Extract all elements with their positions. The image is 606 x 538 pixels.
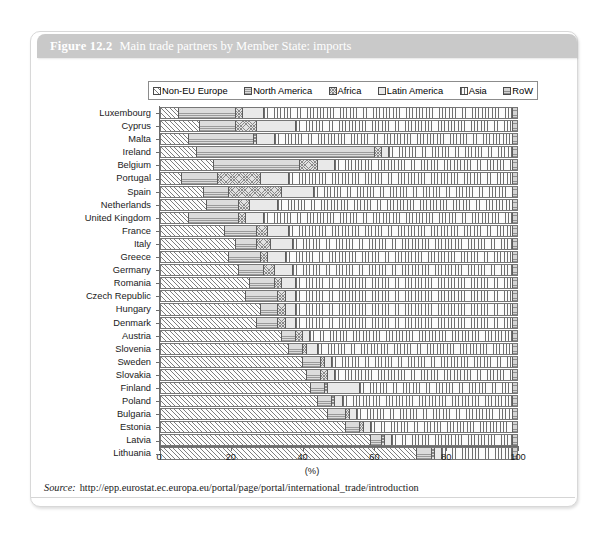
bar-segment-row: [513, 187, 517, 197]
stacked-bar: [160, 264, 518, 276]
legend-item-label: Africa: [338, 86, 362, 96]
bar-segment-row: [513, 291, 517, 301]
bar-segment-latin-america: [257, 121, 296, 131]
bar-segment-asia: [371, 422, 513, 432]
bar-segment-latin-america: [250, 200, 278, 210]
bar-row: [160, 277, 518, 289]
stacked-bar: [160, 395, 518, 407]
bar-segment-north-america: [346, 422, 360, 432]
y-axis-tick: [156, 349, 159, 350]
y-axis-label: Lithuania: [40, 447, 156, 459]
stacked-bar: [160, 356, 518, 368]
stacked-bar: [160, 107, 518, 119]
y-axis-tick: [156, 323, 159, 324]
y-axis-tick: [156, 205, 159, 206]
legend-swatch-icon: [503, 87, 511, 95]
figure-page: Figure 12.2Main trade partners by Member…: [0, 0, 606, 538]
bar-segment-latin-america: [246, 213, 264, 223]
legend-item-label: North America: [253, 86, 312, 96]
bar-segment-row: [513, 344, 517, 354]
bar-segment-non-eu-europe: [161, 357, 303, 367]
bar-segment-north-america: [229, 252, 261, 262]
bar-segment-latin-america: [286, 304, 297, 314]
y-axis-label: Cyprus: [40, 120, 156, 132]
legend-item-label: Latin America: [387, 86, 443, 96]
x-axis-tick: [446, 447, 447, 451]
bar-segment-asia: [343, 396, 514, 406]
bar-segment-asia: [335, 370, 513, 380]
bar-segment-africa: [296, 331, 303, 341]
bar-segment-africa: [236, 108, 243, 118]
legend-item-africa: Africa: [329, 86, 362, 96]
bar-row: [160, 264, 518, 276]
bar-segment-asia: [332, 357, 514, 367]
stacked-bar: [160, 238, 518, 250]
y-axis-labels: LuxembourgCyprusMaltaIrelandBelgiumPortu…: [40, 107, 156, 445]
bar-segment-latin-america: [364, 422, 371, 432]
y-axis-tick: [156, 336, 159, 337]
y-axis-tick: [156, 179, 159, 180]
bar-segment-africa: [278, 304, 285, 314]
bar-segment-africa: [229, 187, 282, 197]
bar-segment-row: [513, 331, 517, 341]
bar-row: [160, 225, 518, 237]
figure-title-text: Main trade partners by Member State: imp…: [119, 39, 351, 53]
bar-segment-latin-america: [382, 147, 389, 157]
bar-row: [160, 146, 518, 158]
bar-segment-north-america: [207, 200, 239, 210]
bar-segment-africa: [321, 370, 328, 380]
bar-segment-latin-america: [268, 252, 286, 262]
bar-segment-north-america: [200, 121, 236, 131]
stacked-bar: [160, 199, 518, 211]
y-axis-label: Denmark: [40, 317, 156, 329]
figure-number: Figure 12.2: [50, 39, 112, 53]
bar-segment-africa: [278, 291, 285, 301]
bar-segment-north-america: [179, 108, 236, 118]
bar-segment-row: [513, 213, 517, 223]
y-axis-tick: [156, 454, 159, 455]
y-axis-label: Malta: [40, 133, 156, 145]
bar-segment-row: [513, 383, 517, 393]
bar-segment-non-eu-europe: [161, 344, 289, 354]
bar-segment-asia: [335, 160, 513, 170]
bar-segment-latin-america: [307, 344, 318, 354]
y-axis-label: Netherlands: [40, 199, 156, 211]
x-axis-tick: [518, 447, 519, 451]
bar-segment-latin-america: [385, 435, 392, 445]
bar-segment-africa: [257, 239, 271, 249]
stacked-bar: [160, 120, 518, 132]
stacked-bar: [160, 290, 518, 302]
x-axis-tick: [374, 447, 375, 451]
y-axis-label: Hungary: [40, 303, 156, 315]
x-axis-tick-label: 40: [297, 452, 307, 462]
y-axis-tick: [156, 113, 159, 114]
bar-segment-africa: [278, 318, 285, 328]
bar-segment-row: [513, 396, 517, 406]
bar-segment-asia: [293, 265, 514, 275]
bar-segment-row: [513, 173, 517, 183]
legend-swatch-icon: [329, 87, 337, 95]
stacked-bar: [160, 382, 518, 394]
y-axis-tick: [156, 165, 159, 166]
bar-segment-non-eu-europe: [161, 304, 261, 314]
bar-row: [160, 447, 518, 459]
stacked-bar: [160, 251, 518, 263]
legend-swatch-icon: [244, 87, 252, 95]
bar-segment-latin-america: [286, 291, 297, 301]
bar-segment-latin-america: [282, 187, 314, 197]
x-axis-tick: [159, 447, 160, 451]
bar-segment-asia: [389, 147, 514, 157]
bar-segment-non-eu-europe: [161, 435, 371, 445]
bar-segment-asia: [296, 278, 513, 288]
bar-segment-asia: [286, 252, 514, 262]
bar-row: [160, 382, 518, 394]
bar-segment-row: [513, 265, 517, 275]
bar-row: [160, 356, 518, 368]
bar-segment-row: [513, 226, 517, 236]
bar-segment-non-eu-europe: [161, 409, 328, 419]
y-axis-tick: [156, 375, 159, 376]
bar-segment-latin-america: [303, 331, 310, 341]
x-axis-tick: [231, 447, 232, 451]
stacked-bar: [160, 447, 518, 459]
bar-row: [160, 303, 518, 315]
